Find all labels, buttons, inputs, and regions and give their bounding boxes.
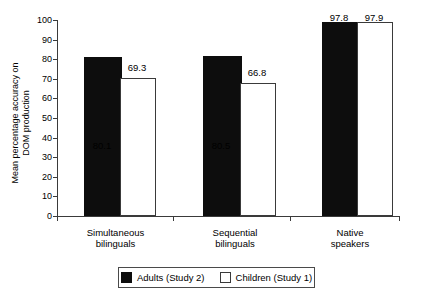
bar-adults-sequential[interactable] <box>203 56 242 216</box>
legend-item-children[interactable]: Children (Study 1) <box>220 272 313 283</box>
legend-label-adults: Adults (Study 2) <box>137 273 205 283</box>
x-axis-line <box>57 216 400 217</box>
y-tick-mark-40 <box>53 138 57 139</box>
y-tick-label-70: 70 <box>24 75 52 84</box>
y-tick-label-90: 90 <box>24 36 52 45</box>
y-tick-mark-100 <box>53 20 57 21</box>
y-tick-label-0: 0 <box>24 212 52 221</box>
y-tick-mark-50 <box>53 118 57 119</box>
x-tick-mark-0 <box>57 216 58 221</box>
bar-adults-simultaneous[interactable] <box>84 57 122 216</box>
legend-label-children: Children (Study 1) <box>236 273 313 283</box>
x-category-label-sequential-line2: bilinguals <box>180 238 290 249</box>
bar-children-simultaneous[interactable] <box>120 78 156 216</box>
x-category-label-sequential-bilinguals: Sequential bilinguals <box>180 227 290 249</box>
bar-value-children-simultaneous: 69.3 <box>105 63 169 73</box>
x-category-label-native-line1: Native <box>300 227 400 238</box>
x-tick-mark-1 <box>173 216 174 221</box>
bar-children-native[interactable] <box>357 22 393 216</box>
x-tick-mark-3 <box>399 216 400 221</box>
x-category-label-sequential-line1: Sequential <box>180 227 290 238</box>
bar-value-children-sequential: 66.8 <box>225 68 289 78</box>
x-category-label-simultaneous-bilinguals: Simultaneous bilinguals <box>58 227 173 249</box>
y-tick-mark-20 <box>53 177 57 178</box>
y-tick-mark-60 <box>53 98 57 99</box>
y-tick-mark-30 <box>53 157 57 158</box>
y-tick-mark-70 <box>53 79 57 80</box>
x-category-label-simultaneous-line2: bilinguals <box>58 238 173 249</box>
x-category-label-simultaneous-line1: Simultaneous <box>58 227 173 238</box>
y-tick-label-60: 60 <box>24 94 52 103</box>
y-tick-label-50: 50 <box>24 114 52 123</box>
chart-legend: Adults (Study 2) Children (Study 1) <box>118 267 315 288</box>
y-tick-mark-90 <box>53 40 57 41</box>
y-axis-title-line1: Mean percentage accuracy on <box>10 62 21 183</box>
x-category-label-native-line2: speakers <box>300 238 400 249</box>
bar-value-children-native: 97.9 <box>343 13 405 23</box>
y-tick-mark-80 <box>53 59 57 60</box>
x-category-label-native-speakers: Native speakers <box>300 227 400 249</box>
bar-children-sequential[interactable] <box>240 83 276 216</box>
y-tick-label-80: 80 <box>24 55 52 64</box>
legend-item-adults[interactable]: Adults (Study 2) <box>121 272 205 283</box>
y-tick-label-40: 40 <box>24 134 52 143</box>
y-tick-label-10: 10 <box>24 192 52 201</box>
x-tick-mark-2 <box>290 216 291 221</box>
y-tick-label-20: 20 <box>24 173 52 182</box>
y-tick-label-30: 30 <box>24 153 52 162</box>
y-axis-line <box>57 20 58 216</box>
y-tick-label-100: 100 <box>24 16 52 25</box>
legend-swatch-open-square-icon <box>220 272 231 283</box>
legend-swatch-filled-square-icon <box>121 272 132 283</box>
plot-area: 80.1 69.3 80.5 66.8 97.8 97.9 <box>57 20 400 216</box>
bar-adults-native[interactable] <box>322 22 358 216</box>
y-tick-mark-10 <box>53 196 57 197</box>
bar-chart-figure: Mean percentage accuracy on DOM producti… <box>0 0 426 295</box>
